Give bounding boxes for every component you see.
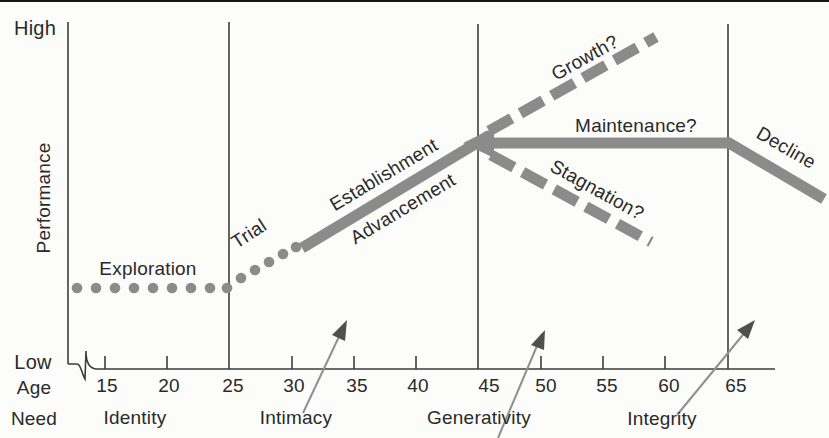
age-tick-35: 35	[346, 375, 368, 397]
curve-label-exploration: Exploration	[99, 258, 196, 280]
age-tick-55: 55	[596, 375, 618, 397]
stage-boundary-lines	[229, 22, 728, 369]
age-tick-65: 65	[725, 375, 747, 397]
age-tick-60: 60	[658, 375, 680, 397]
arrowhead	[332, 320, 347, 341]
y-axis-low-label: Low	[14, 351, 51, 374]
curve-label-maintenance: Maintenance?	[575, 115, 697, 137]
age-tick-15: 15	[96, 375, 118, 397]
need-intimacy: Intimacy	[260, 407, 332, 429]
establishment-advancement-line	[302, 135, 490, 248]
need-arrow-integrity	[677, 320, 755, 415]
need-identity: Identity	[104, 407, 167, 429]
y-axis-title: Performance	[33, 143, 55, 254]
plot-canvas	[0, 2, 829, 438]
y-axis-high-label: High	[14, 17, 56, 40]
age-tick-40: 40	[407, 375, 429, 397]
age-tick-45: 45	[478, 375, 500, 397]
need-arrow-intimacy	[303, 320, 347, 413]
need-axis-title: Need	[11, 408, 57, 430]
need-integrity: Integrity	[627, 408, 696, 430]
age-tick-25: 25	[222, 375, 244, 397]
exploration-dotted-line	[72, 283, 233, 294]
arrowhead	[531, 330, 545, 350]
career-stages-chart: High Performance Low Age Need 15 20 25 3…	[0, 0, 829, 438]
need-generativity: Generativity	[427, 407, 531, 429]
x-axis-title: Age	[17, 377, 51, 399]
age-tick-30: 30	[283, 375, 305, 397]
age-tick-20: 20	[158, 375, 180, 397]
arrowhead	[737, 320, 755, 339]
age-tick-50: 50	[535, 375, 557, 397]
